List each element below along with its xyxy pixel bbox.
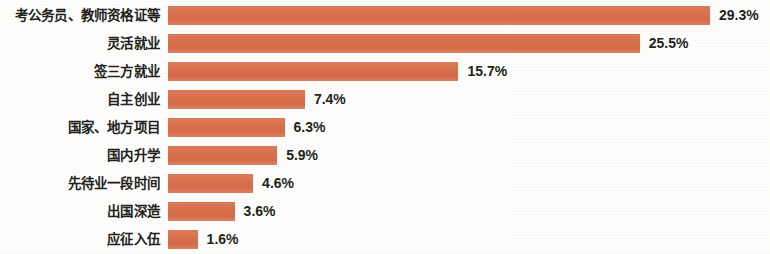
plot-area: 考公务员、教师资格证等29.3%灵活就业25.5%签三方就业15.7%自主创业7… xyxy=(0,0,770,254)
bar xyxy=(168,202,235,221)
category-label: 签三方就业 xyxy=(0,63,160,81)
bar xyxy=(168,62,458,81)
category-label: 国家、地方项目 xyxy=(0,119,160,137)
chart-row: 国内升学5.9% xyxy=(0,142,770,170)
value-label: 3.6% xyxy=(244,202,276,221)
bar-group: 4.6% xyxy=(168,174,294,193)
horizontal-bar-chart: 考公务员、教师资格证等29.3%灵活就业25.5%签三方就业15.7%自主创业7… xyxy=(0,0,770,254)
chart-row: 灵活就业25.5% xyxy=(0,30,770,58)
category-label: 灵活就业 xyxy=(0,35,160,53)
category-label: 国内升学 xyxy=(0,147,160,165)
bar-group: 6.3% xyxy=(168,118,325,137)
bar-group: 15.7% xyxy=(168,62,507,81)
bar xyxy=(168,6,710,25)
category-label: 先待业一段时间 xyxy=(0,175,160,193)
bar xyxy=(168,146,277,165)
bar xyxy=(168,174,253,193)
bar xyxy=(168,118,285,137)
bar-group: 29.3% xyxy=(168,6,759,25)
bar xyxy=(168,90,305,109)
chart-row: 应征入伍1.6% xyxy=(0,226,770,254)
bar xyxy=(168,34,640,53)
bar-group: 3.6% xyxy=(168,202,276,221)
bar-group: 5.9% xyxy=(168,146,318,165)
category-label: 出国深造 xyxy=(0,203,160,221)
value-label: 15.7% xyxy=(467,62,507,81)
chart-row: 考公务员、教师资格证等29.3% xyxy=(0,2,770,30)
category-label: 考公务员、教师资格证等 xyxy=(0,7,160,25)
chart-row: 出国深造3.6% xyxy=(0,198,770,226)
chart-row: 自主创业7.4% xyxy=(0,86,770,114)
chart-row: 签三方就业15.7% xyxy=(0,58,770,86)
category-label: 应征入伍 xyxy=(0,231,160,249)
bar-group: 25.5% xyxy=(168,34,688,53)
value-label: 7.4% xyxy=(314,90,346,109)
value-label: 25.5% xyxy=(649,34,689,53)
value-label: 4.6% xyxy=(262,174,294,193)
value-label: 1.6% xyxy=(207,230,239,249)
chart-row: 先待业一段时间4.6% xyxy=(0,170,770,198)
chart-row: 国家、地方项目6.3% xyxy=(0,114,770,142)
category-label: 自主创业 xyxy=(0,91,160,109)
bar xyxy=(168,230,198,249)
value-label: 29.3% xyxy=(719,6,759,25)
bar-group: 7.4% xyxy=(168,90,346,109)
value-label: 6.3% xyxy=(294,118,326,137)
value-label: 5.9% xyxy=(286,146,318,165)
bar-group: 1.6% xyxy=(168,230,239,249)
